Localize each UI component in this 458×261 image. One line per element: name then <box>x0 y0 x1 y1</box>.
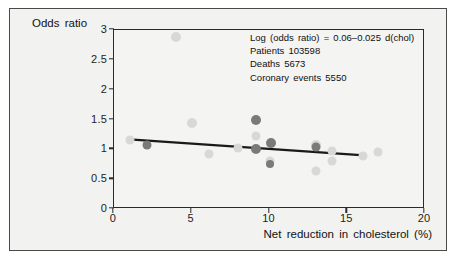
data-point <box>266 160 274 168</box>
data-point <box>204 150 213 159</box>
x-tick-label: 0 <box>110 212 116 224</box>
y-axis-labels: 00.511.522.53 <box>73 29 107 208</box>
data-point <box>327 147 336 156</box>
data-point <box>125 136 134 145</box>
y-tick-label: 0 <box>101 202 107 214</box>
data-point <box>234 144 243 153</box>
x-tick-label: 15 <box>340 212 353 224</box>
annotation-deaths: Deaths 5673 <box>250 57 414 70</box>
data-point <box>358 151 367 160</box>
y-tick-label: 1 <box>101 142 107 154</box>
data-point <box>374 148 383 157</box>
annotation-coronary-events: Coronary events 5550 <box>250 71 414 84</box>
data-point <box>171 32 181 42</box>
x-tick-label: 20 <box>418 212 431 224</box>
annotation-equation: Log (odds ratio) = 0.06–0.025 d(chol) <box>250 31 414 44</box>
x-axis-title: Net reduction in cholesterol (%) <box>264 228 432 240</box>
y-tick-label: 2 <box>101 83 107 95</box>
data-point <box>187 118 197 128</box>
data-point <box>251 131 260 140</box>
annotation-patients: Patients 103598 <box>250 44 414 57</box>
data-point <box>142 140 151 149</box>
y-tick-label: 3 <box>101 23 107 35</box>
data-point <box>312 142 321 151</box>
data-point <box>251 144 261 154</box>
y-axis-title: Odds ratio <box>32 17 87 29</box>
data-point <box>327 156 336 165</box>
figure-container: Odds ratio 00.511.522.53 05101520 Log (o… <box>9 8 447 251</box>
x-tick-label: 5 <box>188 212 194 224</box>
x-axis-labels: 05101520 <box>113 208 424 228</box>
data-point <box>251 115 261 125</box>
x-tick-label: 10 <box>262 212 275 224</box>
y-tick-label: 0.5 <box>91 172 107 184</box>
data-point <box>266 138 276 148</box>
y-tick-label: 1.5 <box>91 113 107 125</box>
y-tick-label: 2.5 <box>91 53 107 65</box>
data-point <box>312 167 321 176</box>
annotation-text-block: Log (odds ratio) = 0.06–0.025 d(chol) Pa… <box>250 31 414 84</box>
